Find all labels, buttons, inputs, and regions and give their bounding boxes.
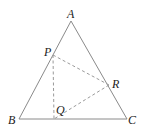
label-R: R [111,77,120,91]
segment-PR [53,55,109,85]
label-Q: Q [56,103,65,117]
label-C: C [128,113,137,127]
label-B: B [8,113,16,127]
label-P: P [43,45,52,59]
segment-PQ [53,55,54,119]
triangle-diagram: A B C P Q R [0,0,141,130]
segment-CA [71,21,127,119]
label-A: A [66,7,75,21]
